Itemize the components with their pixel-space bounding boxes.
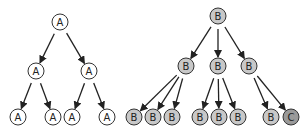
node-label: B [215,11,222,22]
node-label: A [69,112,76,123]
node-label: B [268,112,275,123]
edge-arrow [21,83,31,109]
node-b: B [211,109,227,125]
node-a: A [10,109,26,125]
node-label: A [33,66,40,77]
edge-arrow [94,83,104,109]
node-label: B [131,112,138,123]
node-b: B [230,109,246,125]
edge-arrow [225,27,244,58]
node-a: A [99,109,115,125]
node-label: B [215,61,222,72]
node-label: B [197,112,204,123]
edge-arrow [41,83,50,108]
edge-arrow [67,33,85,63]
node-label: A [57,17,64,28]
node-b: B [178,58,194,74]
node-b: B [210,58,226,74]
nodes-layer: AAAAAAABBBBBBBBBBBC [10,8,299,125]
node-label: C [288,112,295,123]
node-label: B [169,112,176,123]
node-label: B [235,112,242,123]
edge-arrow [75,83,84,108]
node-a: A [45,109,61,125]
node-label: A [104,112,111,123]
node-b: B [241,58,257,74]
edge-arrow [218,79,219,108]
node-a: A [64,109,80,125]
node-label: B [246,61,253,72]
node-b: B [192,109,208,125]
edge-arrow [140,75,176,111]
tree-a-nodes: AAAAAAA [10,14,115,125]
node-a: A [52,14,68,30]
tree-diagram: AAAAAAABBBBBBBBBBBC [0,0,306,133]
node-a: A [28,63,44,79]
node-label: B [150,112,157,123]
edge-arrow [254,78,267,109]
node-label: A [86,66,93,77]
node-b: B [126,109,142,125]
node-a: A [81,63,97,79]
edge-arrow [223,78,235,109]
edge-arrow [203,78,214,108]
node-label: B [183,61,190,72]
edge-arrow [40,34,54,63]
node-b: B [263,109,279,125]
node-b: B [145,109,161,125]
edge-arrow [191,27,211,59]
edge-arrow [257,76,285,110]
node-label: A [50,112,57,123]
node-label: B [216,112,223,123]
node-label: A [15,112,22,123]
node-b: B [210,8,226,24]
node-c: C [283,109,299,125]
tree-b-nodes: BBBBBBBBBBBC [126,8,299,125]
node-b: B [164,109,180,125]
